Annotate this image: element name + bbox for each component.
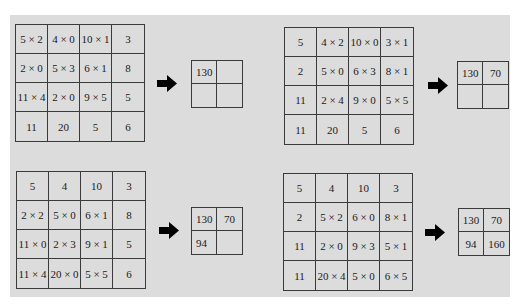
input-cell: 6 × 5 (380, 261, 412, 290)
input-cell: 11 (284, 261, 316, 290)
input-cell: 6 × 0 (348, 203, 380, 232)
input-cell: 8 × 1 (380, 203, 412, 232)
input-cell: 6 (113, 259, 145, 288)
input-cell: 3 (380, 174, 412, 203)
input-cell: 5 × 0 (317, 57, 349, 86)
input-cell: 11 (16, 112, 48, 141)
input-cell: 11 (284, 232, 316, 261)
output-cell: 130 (192, 61, 217, 84)
right-arrow-icon (157, 75, 177, 92)
input-cell: 5 × 2 (16, 25, 48, 54)
input-cell: 20 × 0 (49, 259, 81, 288)
input-cell: 4 × 0 (48, 25, 80, 54)
input-cell: 2 × 0 (48, 83, 80, 112)
input-cell: 9 × 0 (349, 86, 381, 115)
input-cell: 3 × 1 (381, 28, 413, 57)
output-cell: 70 (483, 62, 508, 85)
input-cell: 20 (317, 115, 349, 144)
input-cell: 5 × 0 (49, 201, 81, 230)
input-cell: 11 (285, 86, 317, 115)
input-cell: 8 (112, 54, 144, 83)
output-cell (217, 61, 242, 84)
output-cell: 94 (459, 232, 484, 255)
input-cell: 6 × 1 (80, 54, 112, 83)
output-cell: 130 (458, 62, 483, 85)
input-cell: 5 (113, 230, 145, 259)
input-cell: 2 (285, 57, 317, 86)
input-cell: 5 (17, 172, 49, 201)
input-cell: 10 (81, 172, 113, 201)
input-cell: 5 × 2 (316, 203, 348, 232)
output-cell: 70 (484, 209, 509, 232)
input-grid-step-4: 5 4 10 3 2 5 × 2 6 × 0 8 × 1 11 2 × 0 9 … (283, 173, 413, 291)
input-cell: 2 (284, 203, 316, 232)
input-cell: 20 (48, 112, 80, 141)
output-grid-step-4: 130 70 94 160 (458, 208, 510, 256)
input-cell: 10 (348, 174, 380, 203)
input-cell: 5 (285, 28, 317, 57)
input-cell: 9 × 5 (80, 83, 112, 112)
output-cell (192, 84, 217, 107)
input-cell: 11 × 4 (17, 259, 49, 288)
output-cell: 94 (192, 231, 217, 254)
input-cell: 9 × 1 (81, 230, 113, 259)
output-cell (458, 85, 483, 108)
input-cell: 8 (113, 201, 145, 230)
input-cell: 3 (112, 25, 144, 54)
input-cell: 20 × 4 (316, 261, 348, 290)
output-cell: 130 (459, 209, 484, 232)
output-grid-step-2: 130 70 (457, 61, 509, 109)
output-cell: 70 (217, 208, 242, 231)
right-arrow-icon (159, 222, 179, 239)
right-arrow-icon (425, 224, 445, 241)
input-cell: 5 (80, 112, 112, 141)
output-cell (217, 84, 242, 107)
input-cell: 2 × 0 (316, 232, 348, 261)
input-grid-step-3: 5 4 10 3 2 × 2 5 × 0 6 × 1 8 11 × 0 2 × … (16, 171, 146, 289)
input-cell: 6 × 3 (349, 57, 381, 86)
output-cell (483, 85, 508, 108)
input-cell: 11 × 4 (16, 83, 48, 112)
output-grid-step-3: 130 70 94 (191, 207, 243, 255)
input-cell: 4 (49, 172, 81, 201)
input-cell: 5 (284, 174, 316, 203)
input-cell: 2 × 2 (17, 201, 49, 230)
input-cell: 5 × 5 (381, 86, 413, 115)
output-cell (217, 231, 242, 254)
input-cell: 10 × 1 (80, 25, 112, 54)
input-cell: 2 × 3 (49, 230, 81, 259)
input-cell: 6 (381, 115, 413, 144)
input-cell: 11 (285, 115, 317, 144)
input-cell: 2 × 0 (16, 54, 48, 83)
input-cell: 5 × 0 (348, 261, 380, 290)
input-cell: 9 × 3 (348, 232, 380, 261)
input-cell: 6 × 1 (81, 201, 113, 230)
input-cell: 5 × 3 (48, 54, 80, 83)
output-cell: 160 (484, 232, 509, 255)
input-cell: 5 (112, 83, 144, 112)
input-cell: 3 (113, 172, 145, 201)
input-cell: 2 × 4 (317, 86, 349, 115)
input-grid-step-2: 5 4 × 2 10 × 0 3 × 1 2 5 × 0 6 × 3 8 × 1… (284, 27, 414, 145)
input-cell: 5 × 1 (380, 232, 412, 261)
input-cell: 5 (349, 115, 381, 144)
input-cell: 8 × 1 (381, 57, 413, 86)
right-arrow-icon (428, 77, 448, 94)
input-cell: 10 × 0 (349, 28, 381, 57)
input-cell: 6 (112, 112, 144, 141)
input-cell: 4 (316, 174, 348, 203)
input-cell: 4 × 2 (317, 28, 349, 57)
output-grid-step-1: 130 (191, 60, 243, 108)
input-grid-step-1: 5 × 2 4 × 0 10 × 1 3 2 × 0 5 × 3 6 × 1 8… (15, 24, 145, 142)
output-cell: 130 (192, 208, 217, 231)
input-cell: 11 × 0 (17, 230, 49, 259)
input-cell: 5 × 5 (81, 259, 113, 288)
